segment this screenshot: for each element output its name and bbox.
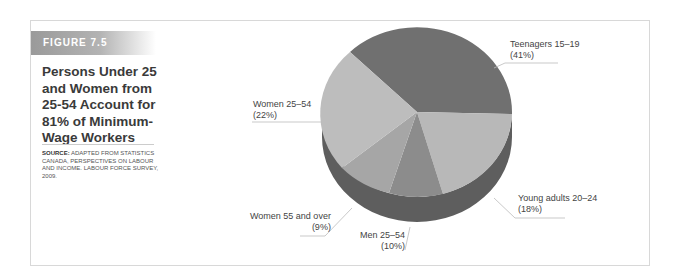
label-women-55-over: Women 55 and over(9%) bbox=[250, 211, 331, 233]
label-women-25-54: Women 25–54(22%) bbox=[253, 99, 311, 121]
label-name: Women 55 and over bbox=[250, 211, 331, 222]
label-value: (18%) bbox=[518, 204, 597, 215]
label-value: (22%) bbox=[253, 110, 311, 121]
leader-teen bbox=[494, 63, 558, 68]
leader-men bbox=[405, 227, 410, 250]
label-men: Men 25–54(10%) bbox=[360, 230, 405, 252]
label-value: (41%) bbox=[510, 50, 580, 61]
label-name: Young adults 20–24 bbox=[518, 193, 597, 204]
label-name: Women 25–54 bbox=[253, 99, 311, 110]
label-name: Teenagers 15–19 bbox=[510, 39, 580, 50]
label-name: Men 25–54 bbox=[360, 230, 405, 241]
label-young-adults: Young adults 20–24(18%) bbox=[518, 193, 597, 215]
label-value: (10%) bbox=[360, 241, 405, 252]
label-value: (9%) bbox=[250, 222, 331, 233]
label-teenagers: Teenagers 15–19(41%) bbox=[510, 39, 580, 61]
